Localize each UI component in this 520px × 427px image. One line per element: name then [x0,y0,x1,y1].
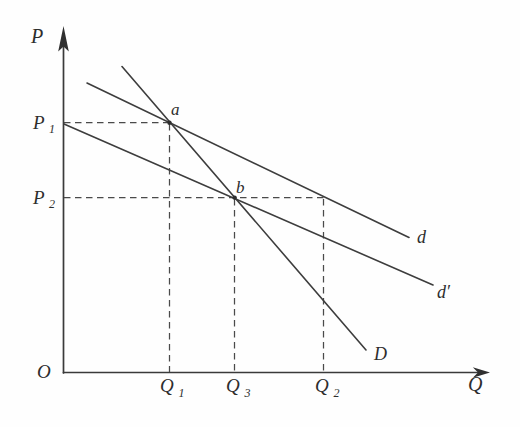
tick-base-text: Q [160,375,174,396]
demand-curves-diagram: P Q O P 1 P 2 Q 1 Q 3 Q 2 a b d d′ D [0,0,520,427]
price-axis-label: P [30,25,43,47]
curve-D-label: D [373,344,387,364]
tick-sub-text: 3 [243,386,250,400]
tick-base-text: P [32,112,45,133]
tick-sub-text: 1 [178,386,184,400]
quantity-axis-label: Q [468,373,483,395]
figure-background [0,0,520,427]
tick-base-text: P [32,187,45,208]
point-a-label: a [171,100,180,119]
curve-d-prime-label: d′ [437,282,451,302]
tick-sub-text: 2 [49,197,55,211]
tick-base-text: Q [315,375,329,396]
tick-sub-text: 2 [333,386,339,400]
point-b-label: b [236,178,245,197]
tick-sub-text: 1 [49,122,55,136]
point-a-marker [167,121,171,125]
origin-label: O [37,361,51,382]
tick-base-text: Q [226,375,240,396]
curve-d-label: d [417,227,427,247]
